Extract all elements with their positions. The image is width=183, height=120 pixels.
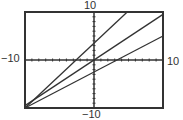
graph-window [0, 0, 183, 120]
